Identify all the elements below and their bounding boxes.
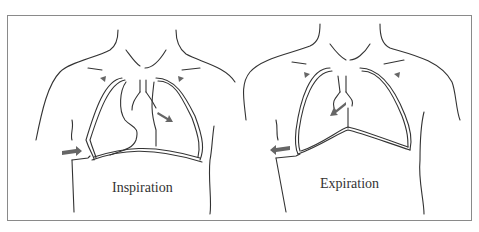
inspiration-label: Inspiration xyxy=(112,180,173,196)
expiration-arrows xyxy=(270,72,400,155)
breathing-diagram xyxy=(0,0,479,232)
inspiration-lungs-outline xyxy=(86,78,203,162)
expiration-label: Expiration xyxy=(320,176,379,192)
expiration-lungs-outline xyxy=(296,68,412,154)
